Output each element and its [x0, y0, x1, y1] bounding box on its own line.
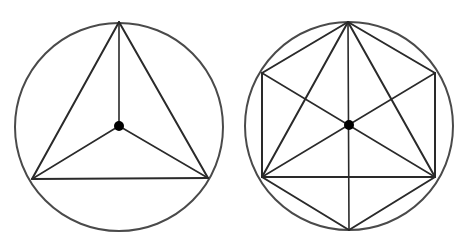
figure-hexagon-triangle-in-circle — [245, 22, 453, 230]
triangle-edge — [119, 22, 208, 178]
center-spoke — [119, 126, 208, 178]
diagram-canvas — [0, 0, 472, 237]
triangle-edge — [32, 178, 208, 179]
triangle-edge — [32, 22, 119, 179]
geometry-diagram — [0, 0, 472, 237]
center-point — [344, 120, 354, 130]
hexagon-edge — [349, 177, 435, 230]
hexagon-edge — [262, 177, 349, 230]
center-point — [114, 121, 124, 131]
figure-triangle-in-circle — [15, 22, 223, 231]
center-spoke — [32, 126, 119, 179]
hexagon-edge — [348, 22, 435, 73]
hexagon-edge — [262, 22, 348, 73]
